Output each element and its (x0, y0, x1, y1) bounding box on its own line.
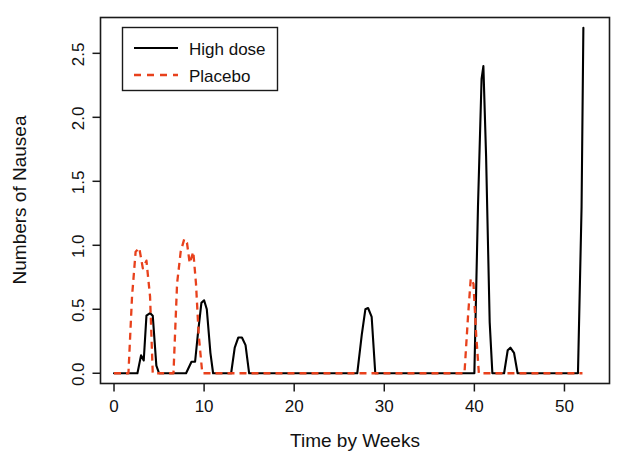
y-tick-label: 1.5 (70, 170, 89, 194)
y-tick-label: 2.5 (70, 43, 89, 67)
y-tick-label: 1.0 (70, 234, 89, 258)
y-tick-label: 0.0 (70, 362, 89, 386)
nausea-time-chart: 01020304050 0.00.51.01.52.02.5 Time by W… (0, 0, 636, 472)
x-tick-label: 10 (195, 397, 214, 416)
y-tick-label: 2.0 (70, 106, 89, 130)
x-tick-label: 40 (465, 397, 484, 416)
x-axis-title: Time by Weeks (290, 430, 420, 451)
chart-background (0, 0, 636, 472)
x-tick-label: 30 (375, 397, 394, 416)
legend-label-high-dose: High dose (189, 40, 266, 59)
chart-canvas: 01020304050 0.00.51.01.52.02.5 Time by W… (0, 0, 636, 472)
x-tick-label: 20 (285, 397, 304, 416)
legend: High dose Placebo (123, 28, 278, 91)
x-tick-label: 0 (109, 397, 118, 416)
y-axis-title: Numbers of Nausea (9, 115, 30, 284)
x-tick-label: 50 (555, 397, 574, 416)
y-tick-label: 0.5 (70, 298, 89, 322)
legend-label-placebo: Placebo (189, 67, 250, 86)
